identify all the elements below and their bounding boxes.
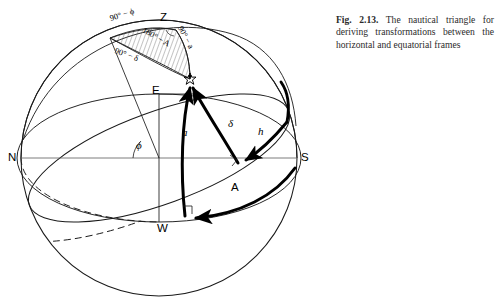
label-azimuth: A	[231, 181, 239, 193]
azimuth-arc-arrow	[196, 168, 295, 218]
label-east: E	[152, 84, 160, 96]
caption-figure-number: Fig. 2.13.	[336, 14, 378, 25]
hour-angle-arc-arrow	[246, 122, 287, 160]
label-hour-angle: h	[258, 125, 264, 137]
label-altitude: a	[182, 126, 188, 138]
figure-caption: Fig. 2.13. The nautical triangle for der…	[336, 14, 494, 51]
figure-nautical-triangle: N S E W Z 90° − ϕ 90° − a 90° − δ 180° −…	[0, 0, 499, 307]
label-south: S	[301, 151, 309, 163]
label-latitude: ϕ	[136, 139, 142, 151]
label-north: N	[8, 151, 16, 163]
label-declination: δ	[228, 117, 233, 129]
label-zenith: Z	[160, 11, 167, 23]
label-west: W	[157, 222, 168, 234]
equator-hidden-arc	[53, 211, 140, 252]
